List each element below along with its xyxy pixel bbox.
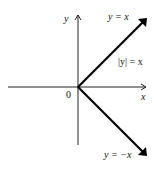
y-axis-label: y xyxy=(64,14,68,24)
region-label: |y| = x xyxy=(118,57,143,67)
lower-ray-label: y = −x xyxy=(104,150,131,160)
y-axis xyxy=(75,15,81,145)
origin-label: 0 xyxy=(66,90,71,100)
x-axis xyxy=(8,84,146,90)
upper-ray-label: y = x xyxy=(108,12,129,22)
graph xyxy=(0,0,154,172)
ray-y-equals-x xyxy=(78,18,147,87)
x-axis-label: x xyxy=(141,92,145,102)
ray-y-equals-neg-x xyxy=(78,87,147,156)
